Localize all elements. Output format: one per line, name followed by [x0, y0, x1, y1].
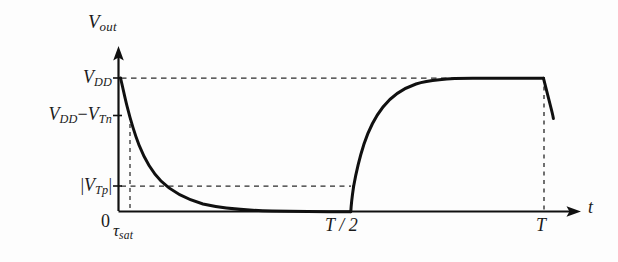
- x-tick-label-t-half: T / 2: [325, 216, 358, 234]
- y-axis-title: Vout: [88, 12, 117, 34]
- x-tick-label-t: T: [536, 216, 546, 234]
- x-tick-label-t-text: T: [536, 215, 546, 235]
- guide-lines: [121, 78, 545, 211]
- y-tick-label-vddvtn-sub: DD: [59, 112, 77, 126]
- curve-rise-steep-segment: [351, 187, 354, 212]
- y-tick-label-vdd-sub: DD: [94, 75, 112, 89]
- abs-bar-right: |: [108, 175, 112, 195]
- y-tick-label-vtp-main: V: [84, 175, 95, 195]
- y-tick-label-vddvtn-main: V: [48, 104, 59, 124]
- y-tick-label-vdd-minus-vtn: VDD−VTn: [0, 105, 112, 125]
- curve-discharge-segment: [121, 78, 351, 212]
- curve-final-drop-segment: [544, 78, 554, 118]
- y-tick-label-vdd-main: V: [83, 67, 94, 87]
- origin-label-text: 0: [101, 211, 110, 231]
- x-axis-title-text: t: [588, 197, 593, 217]
- vout-waveform-figure: Vout VDD VDD−VTn |VTp| 0 τsat T / 2 T t: [0, 0, 618, 262]
- x-tick-label-t-half-text: T / 2: [325, 215, 358, 235]
- axes: [113, 46, 581, 217]
- y-tick-label-vtp-sub: Tp: [95, 183, 108, 197]
- y-tick-label-vtp: |VTp|: [0, 176, 112, 196]
- y-tick-label-vtn-sub: Tn: [99, 112, 112, 126]
- x-tick-label-tausat: τsat: [113, 222, 133, 241]
- x-axis-title: t: [588, 198, 593, 216]
- curve-charge-segment: [354, 78, 544, 186]
- x-tick-label-tausat-sub: sat: [119, 229, 133, 242]
- minus-operator: −: [78, 104, 88, 124]
- y-tick-label-vtn-main: V: [88, 104, 99, 124]
- y-axis-title-sub: out: [100, 19, 117, 34]
- origin-label: 0: [0, 212, 110, 230]
- y-tick-label-vdd: VDD: [0, 68, 112, 88]
- vout-curve-group: [121, 78, 554, 212]
- y-axis-title-main: V: [88, 11, 100, 32]
